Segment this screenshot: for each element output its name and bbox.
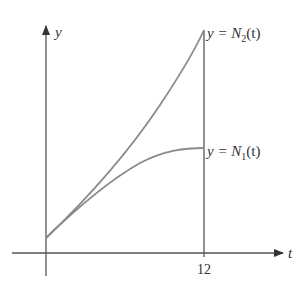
curve-label-n1: y = N1(t) <box>205 143 260 162</box>
curve-n2 <box>46 30 204 238</box>
curve-label-n2: y = N2(t) <box>205 25 260 44</box>
growth-diagram: y t 12 y = N2(t) y = N1(t) <box>0 0 300 286</box>
y-axis-label: y <box>53 24 62 40</box>
x-tick-12: 12 <box>197 262 211 277</box>
curve-n1 <box>46 148 204 238</box>
x-axis-label: t <box>288 245 293 261</box>
